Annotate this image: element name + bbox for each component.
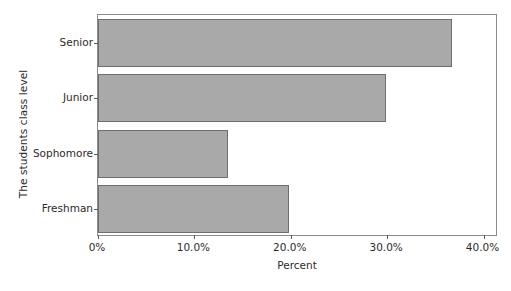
x-tick-label: 0% bbox=[89, 241, 106, 254]
y-tick-label-sophomore: Sophomore bbox=[33, 146, 93, 160]
x-tick-mark bbox=[291, 235, 292, 239]
bar-freshman bbox=[98, 185, 289, 233]
y-tick-mark bbox=[94, 209, 98, 210]
x-tick-label: 30.0% bbox=[369, 241, 402, 254]
x-tick-mark bbox=[484, 235, 485, 239]
plot-area bbox=[98, 15, 496, 235]
x-tick-label: 40.0% bbox=[466, 241, 499, 254]
y-tick-label-senior: Senior bbox=[60, 35, 93, 49]
y-axis-tick-labels: SeniorJuniorSophomoreFreshman bbox=[0, 14, 93, 236]
x-tick-mark bbox=[98, 235, 99, 239]
x-axis-title: Percent bbox=[97, 258, 497, 272]
x-tick-label: 10.0% bbox=[177, 241, 210, 254]
bar-senior bbox=[98, 19, 452, 67]
x-tick-label: 20.0% bbox=[273, 241, 306, 254]
bar-sophomore bbox=[98, 130, 228, 178]
bar-junior bbox=[98, 74, 386, 122]
plot-frame bbox=[97, 14, 497, 236]
y-tick-mark bbox=[94, 43, 98, 44]
y-tick-label-freshman: Freshman bbox=[42, 201, 93, 215]
y-tick-mark bbox=[94, 98, 98, 99]
y-tick-mark bbox=[94, 154, 98, 155]
x-tick-mark bbox=[387, 235, 388, 239]
x-tick-mark bbox=[194, 235, 195, 239]
bar-chart: The students class level SeniorJuniorSop… bbox=[0, 0, 511, 291]
y-tick-label-junior: Junior bbox=[63, 90, 93, 104]
